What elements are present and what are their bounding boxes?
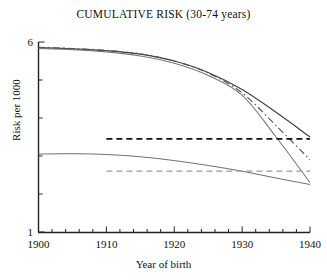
chart-figure: CUMULATIVE RISK (30-74 years) Risk per 1… <box>0 0 327 280</box>
x-tick-label: 1930 <box>231 238 254 250</box>
series-line-upper-solid-gray <box>39 48 311 182</box>
data-series-group <box>39 47 311 184</box>
y-tick-label: 1 <box>28 226 34 238</box>
y-axis-ticks <box>39 42 45 232</box>
series-line-upper-dash-dot <box>39 47 311 159</box>
x-tick-label: 1940 <box>299 238 322 250</box>
axis-lines <box>38 42 310 233</box>
series-line-lower-solid-gray <box>39 154 311 185</box>
y-tick-label: 6 <box>28 36 34 48</box>
x-tick-label: 1910 <box>95 238 118 250</box>
y-axis-tick-labels: 16 <box>28 36 34 238</box>
plot-area: 19001910192019301940 16 <box>0 0 327 280</box>
x-axis-ticks <box>39 227 311 233</box>
x-tick-label: 1920 <box>163 238 186 250</box>
x-tick-label: 1900 <box>28 238 51 250</box>
x-axis-tick-labels: 19001910192019301940 <box>28 238 322 250</box>
